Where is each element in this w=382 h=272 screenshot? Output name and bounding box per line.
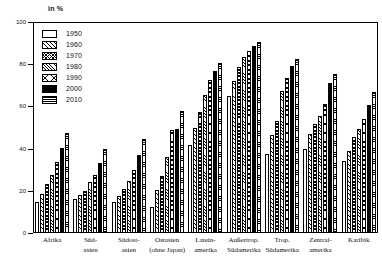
x-axis-labels: AfrikaSüd-asienSüdost-asienOstasien(ohne…	[33, 236, 378, 255]
bar-1980	[357, 129, 361, 233]
x-axis-category-line: Süd-	[71, 236, 109, 246]
legend-item: 1990	[42, 73, 82, 83]
bar-1970	[352, 137, 356, 233]
x-axis-category-line: Außertrop.	[225, 236, 263, 246]
urbanization-bar-chart: in % 020406080100 1950196019701980199020…	[0, 0, 382, 272]
bar-2010	[142, 139, 146, 233]
legend-swatch-1980	[42, 63, 57, 71]
legend-item: 2010	[42, 95, 82, 105]
legend-swatch-1960	[42, 41, 57, 49]
bar-1950	[73, 199, 77, 233]
legend-swatch-1970	[42, 52, 57, 60]
x-axis-category-line: Südost-	[110, 236, 148, 246]
bar-2000	[137, 155, 141, 233]
x-axis-category-label: Latein-amerika	[186, 236, 224, 255]
chart-legend: 1950196019701980199020002010	[42, 29, 82, 105]
bar-2010	[180, 111, 184, 233]
legend-label: 2010	[66, 96, 82, 103]
bar-group	[186, 22, 224, 233]
bar-1990	[170, 130, 174, 233]
bar-1970	[160, 176, 164, 233]
bar-1990	[323, 104, 327, 233]
bar-groups	[33, 22, 378, 233]
bar-2010	[372, 92, 376, 233]
bar-1980	[280, 91, 284, 233]
x-axis-category-label: Afrika	[33, 236, 71, 255]
bar-1970	[45, 184, 49, 233]
legend-item: 1960	[42, 40, 82, 50]
x-axis-category-label: Außertrop.Südamerika	[225, 236, 263, 255]
x-axis-category-line: Karibik	[340, 236, 378, 246]
x-axis-category-line: Afrika	[33, 236, 71, 246]
bar-1980	[50, 175, 54, 233]
bar-group	[225, 22, 263, 233]
y-axis-tick-label: 60	[19, 103, 26, 109]
bar-1980	[88, 182, 92, 233]
bar-2010	[295, 59, 299, 233]
y-axis-tick-label: 20	[19, 188, 26, 194]
y-axis-tick-mark	[28, 233, 33, 234]
x-axis-category-label: Zentral-amerika	[301, 236, 339, 255]
bar-1980	[242, 57, 246, 233]
bar-1970	[237, 67, 241, 233]
x-axis-category-label: Ostasien(ohne Japan)	[148, 236, 186, 255]
bar-2010	[333, 74, 337, 233]
bar-2000	[290, 66, 294, 233]
x-axis-category-line: (ohne Japan)	[148, 246, 186, 256]
bar-2010	[218, 63, 222, 233]
bar-1960	[308, 134, 312, 233]
x-axis-category-line: Trop.	[263, 236, 301, 246]
legend-label: 2000	[66, 85, 82, 92]
bar-1990	[362, 119, 366, 233]
x-axis-category-line: Südamerika	[263, 246, 301, 256]
bar-1960	[78, 195, 82, 233]
bar-2010	[103, 149, 107, 233]
x-axis-category-line: Latein-	[186, 236, 224, 246]
bar-1980	[203, 95, 207, 233]
bar-2000	[60, 148, 64, 233]
bar-1950	[265, 154, 269, 233]
x-axis-category-line: asien	[71, 246, 109, 256]
bar-1970	[122, 189, 126, 233]
legend-label: 1990	[66, 74, 82, 81]
y-axis-tick-label: 100	[16, 19, 26, 25]
bar-2000	[98, 163, 102, 233]
y-axis-tick-label: 40	[19, 146, 26, 152]
legend-swatch-2010	[42, 96, 57, 104]
bar-1960	[270, 135, 274, 233]
bar-2000	[367, 105, 371, 233]
bar-group	[340, 22, 378, 233]
bar-1970	[83, 191, 87, 233]
x-axis-category-line: Südamerika	[225, 246, 263, 256]
legend-item: 1980	[42, 62, 82, 72]
x-axis-category-label: Trop.Südamerika	[263, 236, 301, 255]
x-axis-category-line: asien	[110, 246, 148, 256]
x-axis-category-line: amerika	[301, 246, 339, 256]
bar-group	[301, 22, 339, 233]
bar-group	[148, 22, 186, 233]
bar-1960	[347, 151, 351, 233]
bar-1990	[132, 170, 136, 233]
bar-group	[110, 22, 148, 233]
legend-swatch-1990	[42, 74, 57, 82]
bar-1960	[117, 196, 121, 233]
bar-1960	[232, 81, 236, 233]
bar-1990	[208, 80, 212, 233]
x-axis-category-line: Zentral-	[301, 236, 339, 246]
bar-1980	[318, 116, 322, 233]
bar-1950	[227, 96, 231, 233]
y-axis-tick-label: 80	[19, 61, 26, 67]
bar-2000	[213, 71, 217, 233]
bar-1960	[40, 194, 44, 233]
y-axis-unit-label: in %	[48, 5, 63, 12]
plot-area	[33, 22, 378, 233]
bar-2000	[175, 129, 179, 233]
legend-label: 1980	[66, 63, 82, 70]
bar-1990	[93, 175, 97, 233]
legend-swatch-1950	[42, 30, 57, 38]
bar-2010	[257, 42, 261, 233]
bar-group	[263, 22, 301, 233]
x-axis-category-line: Ostasien	[148, 236, 186, 246]
x-axis-category-label: Süd-asien	[71, 236, 109, 255]
bar-1970	[198, 112, 202, 233]
